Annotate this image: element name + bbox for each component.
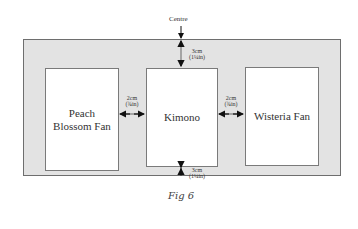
dimension-imperial: (1¼in)	[184, 54, 210, 60]
dimension-imperial: (¾in)	[219, 101, 243, 107]
centre-label: Centre	[169, 15, 188, 23]
dimension-left-gap: 2cm (¾in)	[120, 95, 144, 107]
figure-caption: Fig 6	[168, 190, 194, 201]
dimension-top: 3cm (1¼in)	[184, 48, 210, 60]
dimension-bottom: 3cm (1¼in)	[184, 167, 210, 179]
dimension-right-gap: 2cm (¾in)	[219, 95, 243, 107]
dimension-imperial: (1¼in)	[184, 173, 210, 179]
dimension-imperial: (¾in)	[120, 101, 144, 107]
